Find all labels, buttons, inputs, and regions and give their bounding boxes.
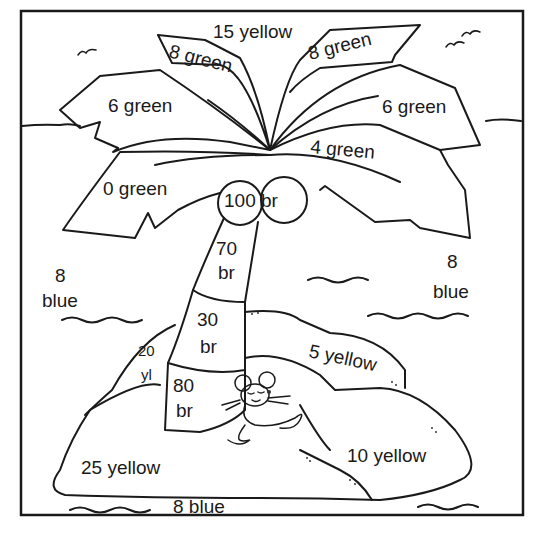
label-sand-right: 10 yellow — [347, 445, 426, 466]
wave-left — [62, 318, 142, 323]
label-water-left-num: 8 — [55, 265, 66, 286]
label-sand-left: 25 yellow — [81, 457, 160, 478]
mouse-illustration — [222, 372, 302, 444]
label-water-right-unit: blue — [433, 281, 469, 302]
bird-icon — [78, 49, 96, 55]
label-trunk-upper-num: 70 — [216, 238, 237, 259]
label-water-left-unit: blue — [42, 290, 78, 311]
label-water-right-num: 8 — [447, 251, 458, 272]
label-sand-ridge: 5 yellow — [307, 340, 379, 375]
wave-right — [368, 314, 468, 319]
label-trunk-mid-num: 30 — [197, 309, 218, 330]
wave-right-upper — [308, 278, 368, 283]
label-sky-top: 15 yellow — [213, 21, 292, 42]
label-coconuts: 100 br — [224, 190, 279, 211]
label-leaf-mid-left: 6 green — [108, 95, 172, 116]
coloring-page: 15 yellow 8 green 8 green 6 green 6 gree… — [0, 0, 534, 533]
trunk-low — [165, 363, 245, 432]
label-leaf-low-right: 4 green — [310, 136, 376, 163]
label-water-bottom: 8 blue — [173, 496, 225, 517]
label-leaf-top-right: 8 green — [306, 28, 374, 64]
wave-bottom-left — [70, 508, 150, 513]
sand-ridge — [245, 356, 471, 500]
label-trunk-low-unit: br — [176, 400, 194, 421]
bird-icon — [446, 42, 464, 47]
label-sand-small-num: 20 — [138, 342, 155, 359]
label-trunk-upper-unit: br — [218, 262, 236, 283]
label-leaf-top-left: 8 green — [167, 41, 235, 77]
island-main — [54, 384, 380, 500]
leaf-low-left-vein — [155, 155, 270, 165]
label-leaf-low-left: 0 green — [103, 178, 167, 199]
island-right-rock2 — [300, 405, 330, 450]
label-leaf-mid-right: 6 green — [382, 96, 446, 117]
wave-bottom-right — [418, 505, 478, 510]
horizon-left — [22, 124, 80, 126]
trunk-upper — [193, 218, 258, 302]
island-back-left — [85, 325, 175, 415]
label-trunk-low-num: 80 — [173, 375, 194, 396]
horizon-right — [486, 120, 521, 122]
bird-icon — [462, 31, 480, 36]
label-trunk-mid-unit: br — [200, 336, 218, 357]
label-sand-small-unit: yl — [141, 366, 152, 383]
